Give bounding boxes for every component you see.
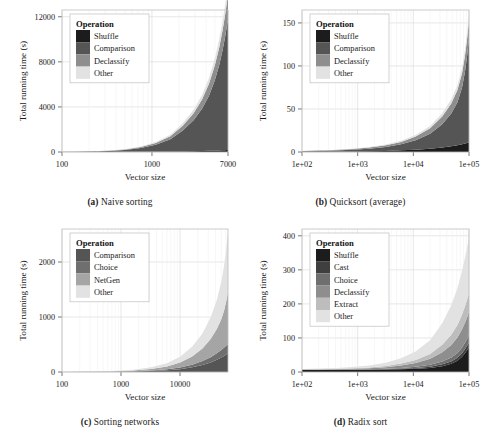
svg-text:Other: Other [334, 69, 353, 78]
svg-text:Vector size: Vector size [125, 392, 166, 402]
svg-text:0: 0 [291, 148, 295, 157]
panel-d: 1e+021e+031e+041e+050100200300400Vector … [240, 219, 481, 439]
svg-text:Shuffle: Shuffle [94, 32, 119, 41]
svg-text:Operation: Operation [316, 238, 354, 248]
svg-text:Operation: Operation [76, 238, 114, 248]
svg-text:Other: Other [94, 288, 113, 297]
svg-text:Declassify: Declassify [334, 288, 370, 297]
chart-svg-b: 1e+021e+031e+041e+05050100150Vector size… [240, 0, 481, 196]
svg-text:1e+05: 1e+05 [459, 160, 480, 169]
svg-text:100: 100 [56, 380, 68, 389]
svg-text:NetGen: NetGen [94, 276, 121, 285]
chart-svg-d: 1e+021e+031e+041e+050100200300400Vector … [240, 219, 481, 416]
svg-text:Choice: Choice [334, 276, 358, 285]
svg-text:12000: 12000 [35, 13, 55, 22]
svg-text:0: 0 [51, 368, 55, 377]
panel-caption-b: (b) Quicksort (average) [315, 197, 405, 207]
svg-text:1000: 1000 [39, 313, 55, 322]
svg-text:Cast: Cast [334, 263, 350, 272]
svg-text:Operation: Operation [316, 19, 354, 29]
panel-caption-text-b: Quicksort (average) [330, 197, 406, 207]
panel-grid: 1001000700004000800012000Vector sizeTota… [0, 0, 481, 439]
svg-text:Vector size: Vector size [365, 172, 406, 182]
svg-text:Vector size: Vector size [125, 172, 166, 182]
svg-text:100: 100 [56, 160, 68, 169]
svg-text:1000: 1000 [144, 160, 160, 169]
svg-text:4000: 4000 [39, 103, 55, 112]
svg-text:Total running time (s): Total running time (s) [18, 41, 28, 121]
svg-text:1e+04: 1e+04 [403, 160, 424, 169]
svg-text:Operation: Operation [76, 19, 114, 29]
svg-text:100: 100 [283, 334, 295, 343]
svg-text:Comparison: Comparison [334, 44, 376, 53]
plot-area-b: 1e+021e+031e+041e+05050100150Vector size… [240, 0, 481, 196]
svg-text:2000: 2000 [39, 258, 55, 267]
svg-text:Declassify: Declassify [94, 57, 130, 66]
plot-area-a: 1001000700004000800012000Vector sizeTota… [0, 0, 240, 196]
svg-text:7000: 7000 [220, 160, 236, 169]
svg-text:1000: 1000 [113, 380, 129, 389]
panel-caption-c: (c) Sorting networks [81, 417, 159, 427]
panel-caption-text-a: Naive sorting [101, 197, 153, 207]
panel-caption-tag-c: (c) [81, 417, 92, 427]
svg-text:150: 150 [283, 19, 295, 28]
svg-text:300: 300 [283, 266, 295, 275]
chart-svg-a: 1001000700004000800012000Vector sizeTota… [0, 0, 240, 196]
panel-caption-tag-d: (d) [334, 417, 346, 427]
svg-text:Shuffle: Shuffle [334, 32, 359, 41]
svg-text:Declassify: Declassify [334, 57, 370, 66]
svg-text:Shuffle: Shuffle [334, 251, 359, 260]
svg-text:Comparison: Comparison [94, 251, 136, 260]
panel-caption-tag-b: (b) [315, 197, 327, 207]
svg-text:1e+05: 1e+05 [459, 380, 480, 389]
svg-text:1e+04: 1e+04 [403, 380, 424, 389]
svg-text:50: 50 [287, 105, 295, 114]
plot-area-c: 100100010000010002000Vector sizeTotal ru… [0, 219, 240, 416]
svg-text:1e+02: 1e+02 [292, 160, 313, 169]
svg-text:Choice: Choice [94, 263, 118, 272]
svg-text:400: 400 [283, 232, 295, 241]
svg-text:0: 0 [291, 368, 295, 377]
chart-svg-c: 100100010000010002000Vector sizeTotal ru… [0, 219, 240, 416]
svg-text:10000: 10000 [170, 380, 190, 389]
panel-caption-a: (a) Naive sorting [87, 197, 152, 207]
svg-text:8000: 8000 [39, 58, 55, 67]
svg-text:200: 200 [283, 300, 295, 309]
panel-c: 100100010000010002000Vector sizeTotal ru… [0, 219, 240, 439]
svg-text:1e+03: 1e+03 [347, 160, 368, 169]
figure-root: 1001000700004000800012000Vector sizeTota… [0, 0, 481, 439]
panel-caption-text-d: Radix sort [348, 417, 387, 427]
panel-a: 1001000700004000800012000Vector sizeTota… [0, 0, 240, 219]
panel-caption-text-c: Sorting networks [94, 417, 159, 427]
panel-caption-tag-a: (a) [87, 197, 98, 207]
svg-text:Other: Other [334, 312, 353, 321]
svg-text:0: 0 [51, 148, 55, 157]
panel-b: 1e+021e+031e+041e+05050100150Vector size… [240, 0, 481, 219]
svg-text:Comparison: Comparison [94, 44, 136, 53]
panel-caption-d: (d) Radix sort [334, 417, 388, 427]
svg-text:Total running time (s): Total running time (s) [258, 41, 268, 121]
svg-text:100: 100 [283, 62, 295, 71]
svg-text:Vector size: Vector size [365, 392, 406, 402]
svg-text:1e+02: 1e+02 [292, 380, 313, 389]
svg-text:Total running time (s): Total running time (s) [258, 260, 268, 340]
svg-text:Other: Other [94, 69, 113, 78]
plot-area-d: 1e+021e+031e+041e+050100200300400Vector … [240, 219, 481, 416]
svg-text:Extract: Extract [334, 300, 359, 309]
svg-text:1e+03: 1e+03 [347, 380, 368, 389]
svg-text:Total running time (s): Total running time (s) [18, 260, 28, 340]
